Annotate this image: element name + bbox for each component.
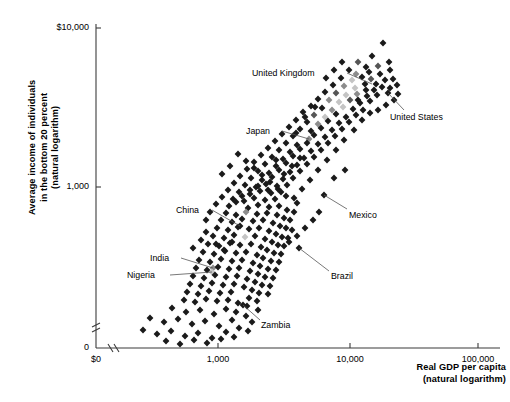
data-point [245,328,252,335]
data-point [289,227,296,234]
data-point [279,234,286,241]
data-point [200,249,207,256]
data-point [216,323,223,330]
country-annotation-zambia: Zambia [261,320,290,330]
data-point [181,297,188,304]
data-point [198,283,205,290]
country-annotation-brazil: Brazil [331,271,353,281]
data-point [237,242,244,249]
data-point [351,127,358,134]
data-point [363,87,370,94]
data-point [319,105,326,112]
data-point [195,330,202,337]
data-point [249,319,256,326]
data-point [276,259,283,266]
data-point [223,329,230,336]
data-point [347,97,354,104]
data-point [239,257,246,264]
data-point [225,227,232,234]
data-point [283,225,290,232]
data-point [233,250,240,257]
data-point [192,299,199,306]
data-point [229,258,236,265]
data-point [294,162,301,169]
data-point [231,334,238,341]
data-point [266,204,273,211]
data-point [325,140,332,147]
data-point [243,249,250,256]
country-annotation-mexico: Mexico [349,210,377,220]
data-point [231,281,238,288]
data-point [183,309,190,316]
data-point [283,193,290,200]
data-point [315,167,322,174]
data-point [250,218,257,225]
data-point [161,319,168,326]
data-point [193,265,200,272]
data-point [297,168,304,175]
data-point [236,265,243,272]
data-point [251,159,258,166]
data-point [187,281,194,288]
data-point [168,328,175,335]
data-point [316,209,323,216]
data-point [203,296,210,303]
x-axis-tick-label: 1,000 [178,354,258,364]
data-point [242,182,249,189]
data-point [333,90,340,97]
data-point [281,243,288,250]
data-point [308,148,315,155]
data-point [322,134,329,141]
data-point [287,169,294,176]
data-point [154,331,161,338]
data-point [343,92,350,99]
data-point [299,186,306,193]
data-point [237,173,244,180]
data-point [271,250,278,257]
data-point [383,102,390,109]
data-point [368,76,375,83]
data-point [209,280,216,287]
data-point [184,289,191,296]
data-point [169,305,176,312]
data-point [250,260,257,267]
data-point [175,316,182,323]
data-point [270,220,277,227]
data-point [331,175,338,182]
data-point [373,81,380,88]
data-point [260,255,267,262]
y-axis-title: Average income of individuals in the bot… [27,47,62,247]
data-point [203,217,210,224]
data-point [202,318,209,325]
data-point [341,83,348,90]
data-point [255,202,262,209]
x-axis-tick-label: $0 [56,354,136,364]
data-point [233,309,240,316]
data-point [206,288,213,295]
country-annotation-india: India [150,253,169,263]
data-point [286,124,293,131]
data-point [281,171,288,178]
data-point [354,91,361,98]
data-point [147,315,154,322]
data-point [255,271,262,278]
data-point [297,155,304,162]
data-point [266,228,273,235]
data-point [246,295,253,302]
data-point [243,158,250,165]
data-point [247,187,254,194]
x-axis-tick-label: 10,000 [310,354,390,364]
data-point [197,307,204,314]
x-axis-title: Real GDP per capita (natural logarithm) [330,362,506,385]
data-point [218,336,225,343]
data-point [275,242,282,249]
data-point [277,223,284,230]
data-point [241,284,248,291]
data-point [262,161,269,168]
data-point [387,67,394,74]
data-point [269,239,276,246]
data-point [223,274,230,281]
data-point [262,236,269,243]
data-point [220,282,227,289]
data-point [339,59,346,66]
